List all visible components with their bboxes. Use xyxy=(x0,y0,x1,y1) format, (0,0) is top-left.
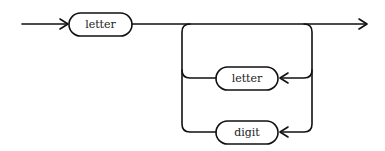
node-letter-main-label: letter xyxy=(85,18,116,31)
loop-left-mid xyxy=(182,70,216,78)
node-letter-loop-label: letter xyxy=(232,72,263,85)
syntax-diagram: letter letter digit xyxy=(0,0,385,151)
node-digit-loop-label: digit xyxy=(234,126,260,139)
